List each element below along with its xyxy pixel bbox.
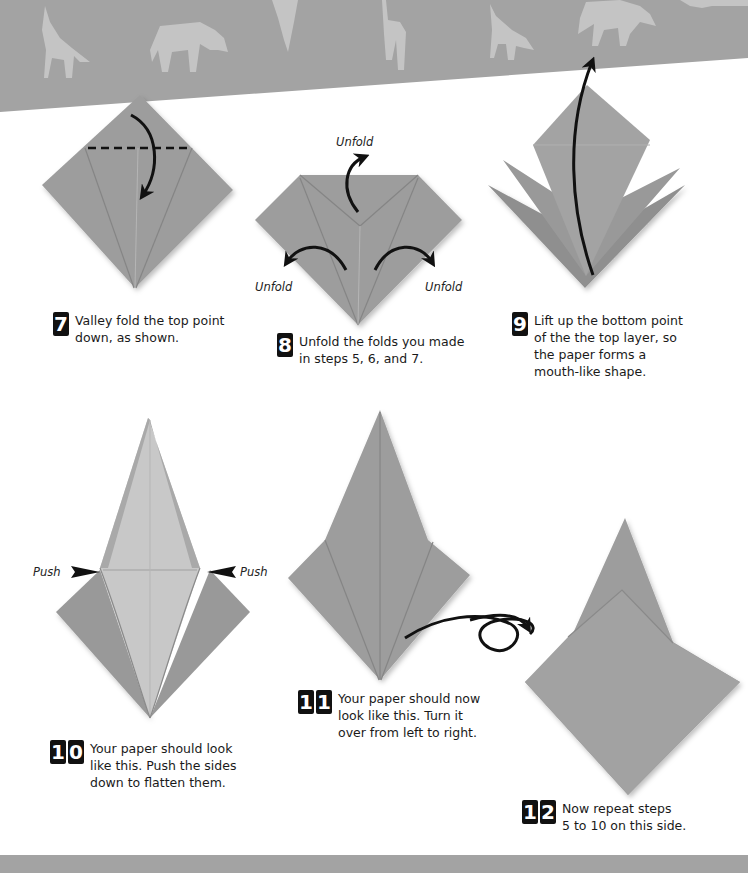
unfold-top-label: Unfold	[336, 135, 373, 149]
step-7-diagram	[42, 95, 233, 288]
unfold-left-label: Unfold	[255, 280, 292, 294]
step-11-diagram	[288, 410, 533, 680]
step-number-badge: 10	[50, 740, 84, 764]
step-number-badge: 9	[512, 312, 528, 336]
step-8-text: Unfold the folds you made in steps 5, 6,…	[299, 333, 464, 367]
step-7-caption: 7 Valley fold the top point down, as sho…	[53, 312, 225, 346]
step-number-badge: 12	[522, 800, 556, 824]
step-11-caption: 11 Your paper should now look like this.…	[298, 690, 480, 741]
step-11-text: Your paper should now look like this. Tu…	[338, 690, 480, 741]
step-10-text: Your paper should look like this. Push t…	[90, 740, 236, 791]
step-8-diagram	[255, 157, 462, 325]
step-12-caption: 12 Now repeat steps 5 to 10 on this side…	[522, 800, 686, 834]
step-7-text: Valley fold the top point down, as shown…	[75, 312, 225, 346]
step-10-caption: 10 Your paper should look like this. Pus…	[50, 740, 236, 791]
step-8-caption: 8 Unfold the folds you made in steps 5, …	[277, 333, 464, 367]
step-10-diagram	[56, 418, 250, 718]
push-right-label: Push	[240, 565, 268, 579]
step-12-diagram	[525, 518, 740, 795]
step-9-caption: 9 Lift up the bottom point of the the to…	[512, 312, 683, 380]
unfold-right-label: Unfold	[425, 280, 462, 294]
step-number-badge: 11	[298, 690, 332, 714]
push-left-label: Push	[33, 565, 61, 579]
step-12-text: Now repeat steps 5 to 10 on this side.	[562, 800, 686, 834]
step-number-badge: 7	[53, 312, 69, 336]
step-number-badge: 8	[277, 333, 293, 357]
step-9-text: Lift up the bottom point of the the top …	[534, 312, 683, 380]
bottom-banner	[0, 855, 748, 873]
step-9-diagram	[488, 62, 685, 288]
